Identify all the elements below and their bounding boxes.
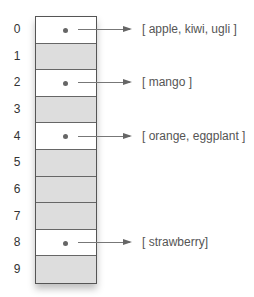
bucket-array: [35, 16, 97, 284]
bucket-contents-8: [ strawberry]: [142, 235, 208, 249]
index-label-2: 2: [10, 75, 24, 89]
arrowhead-icon: [123, 79, 132, 85]
bucket-cell-6: [36, 177, 96, 204]
index-label-5: 5: [10, 155, 24, 169]
arrow-icon: [78, 136, 130, 137]
arrow-icon: [78, 29, 130, 30]
bucket-cell-7: [36, 203, 96, 230]
index-label-1: 1: [10, 49, 24, 63]
arrowhead-icon: [123, 239, 132, 245]
bucket-cell-0: [36, 17, 96, 44]
arrow-icon: [78, 82, 130, 83]
index-label-0: 0: [10, 22, 24, 36]
bucket-cell-3: [36, 97, 96, 124]
index-label-7: 7: [10, 209, 24, 223]
arrowhead-icon: [123, 26, 132, 32]
index-label-4: 4: [10, 129, 24, 143]
bucket-contents-4: [ orange, eggplant ]: [142, 129, 245, 143]
pointer-dot-icon: [63, 81, 68, 86]
bucket-cell-5: [36, 150, 96, 177]
bucket-contents-0: [ apple, kiwi, ugli ]: [142, 22, 237, 36]
index-label-8: 8: [10, 235, 24, 249]
index-label-6: 6: [10, 182, 24, 196]
pointer-dot-icon: [63, 28, 68, 33]
arrowhead-icon: [123, 133, 132, 139]
arrow-icon: [78, 242, 130, 243]
pointer-dot-icon: [63, 134, 68, 139]
bucket-cell-9: [36, 256, 96, 283]
bucket-contents-2: [ mango ]: [142, 75, 192, 89]
bucket-cell-8: [36, 230, 96, 257]
hash-table-diagram: 0 1 2 3 4 5 6 7 8 9 [ apple, kiwi, ugli …: [0, 0, 254, 297]
index-label-9: 9: [10, 262, 24, 276]
bucket-cell-2: [36, 70, 96, 97]
index-label-3: 3: [10, 102, 24, 116]
bucket-cell-1: [36, 44, 96, 71]
pointer-dot-icon: [63, 241, 68, 246]
